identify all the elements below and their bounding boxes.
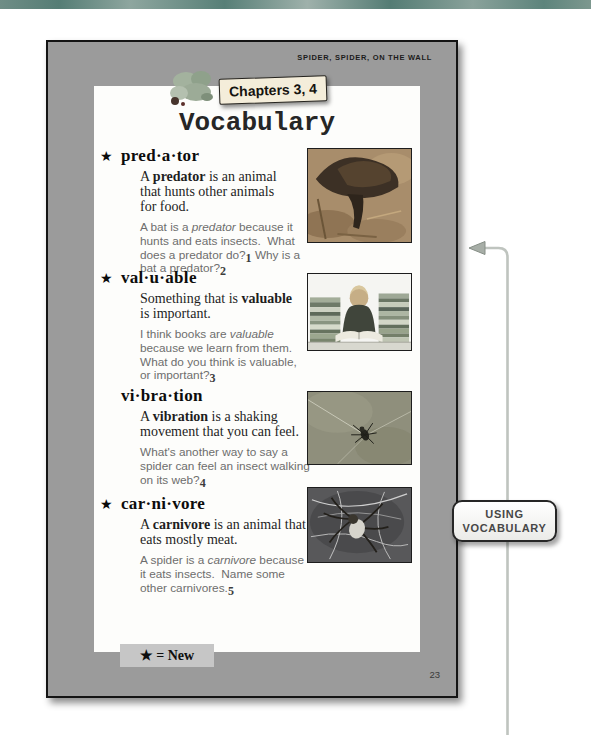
headword: car·ni·vore xyxy=(121,494,205,513)
left-arrow-icon xyxy=(469,242,485,255)
definition: A vibration is a shaking movement that y… xyxy=(140,409,330,439)
footnote-number: 5 xyxy=(228,584,234,598)
using-vocabulary-line1: USING xyxy=(485,507,523,521)
boy-reading-photo xyxy=(307,273,412,351)
spider-web-photo xyxy=(307,391,412,465)
headword: vi·bra·tion xyxy=(121,386,203,405)
footnote-number: 1 xyxy=(246,251,252,265)
headword-row: ★car·ni·vore xyxy=(100,494,315,514)
definition: A predator is an animal that hunts other… xyxy=(140,169,330,214)
headword: pred·a·tor xyxy=(121,146,199,165)
headword-row: vi·bra·tion xyxy=(100,386,315,406)
page-number: 23 xyxy=(414,669,440,680)
bat-photo xyxy=(307,148,412,243)
new-star-icon: ★ xyxy=(100,496,121,513)
page-title: Vocabulary xyxy=(94,108,420,138)
new-legend: ★ = New xyxy=(120,644,214,667)
right-book-stack xyxy=(379,293,409,346)
vocab-entry-predator: ★pred·a·tor A predator is an animal that… xyxy=(100,146,315,276)
using-vocabulary-label: USING VOCABULARY xyxy=(452,500,557,542)
vocab-entry-carnivore: ★car·ni·vore A carnivore is an animal th… xyxy=(100,494,315,595)
paint-splat-icon xyxy=(164,66,222,112)
question: I think books are valuable because we le… xyxy=(140,328,335,383)
chapter-banner: Chapters 3, 4 xyxy=(219,75,328,105)
new-star-icon: ★ xyxy=(100,148,121,165)
vocab-entry-valuable: ★val·u·able Something that is valuable i… xyxy=(100,268,315,383)
decorative-top-bar xyxy=(0,0,591,9)
question: What's another way to say a spider can f… xyxy=(140,446,335,487)
teaching-guide-page: SPIDER, SPIDER, ON THE WALL Chapters 3, … xyxy=(0,0,591,738)
headword-row: ★pred·a·tor xyxy=(100,146,315,166)
headword-row: ★val·u·able xyxy=(100,268,315,288)
new-star-icon: ★ xyxy=(100,270,121,287)
footnote-number: 4 xyxy=(200,476,206,490)
footnote-number: 3 xyxy=(210,371,216,385)
definition: Something that is valuable is important. xyxy=(140,291,330,321)
using-vocabulary-line2: VOCABULARY xyxy=(462,521,546,535)
question: A spider is a carnivore because it eats … xyxy=(140,554,335,595)
dark-spider-web-photo xyxy=(307,487,412,563)
vocab-entry-vibration: vi·bra·tion A vibration is a shaking mov… xyxy=(100,386,315,487)
headword: val·u·able xyxy=(121,268,197,287)
definition: A carnivore is an animal that eats mostl… xyxy=(140,517,330,547)
running-head: SPIDER, SPIDER, ON THE WALL xyxy=(230,53,432,62)
